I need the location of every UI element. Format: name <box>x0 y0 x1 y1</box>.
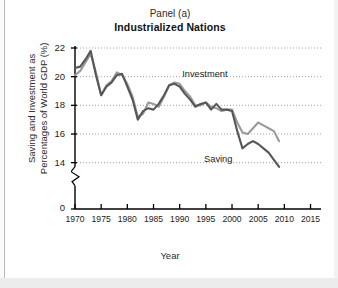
y-tick-label: 20 <box>41 71 65 82</box>
series-line-saving <box>75 51 279 167</box>
y-axis-break-mark <box>71 167 79 186</box>
figure-card: Panel (a) Industrialized Nations Saving … <box>4 0 334 278</box>
x-axis-label: Year <box>5 250 335 261</box>
y-tick-label: 16 <box>41 128 65 139</box>
chart-title-block: Panel (a) Industrialized Nations <box>5 8 335 34</box>
y-tick-label-zero: 0 <box>41 202 65 213</box>
x-tick-label: 2015 <box>296 214 326 224</box>
page-bottom-band <box>0 278 338 288</box>
y-tick-label: 14 <box>41 157 65 168</box>
investment-series-label: Investment <box>182 69 227 79</box>
panel-label: Panel (a) <box>5 8 335 21</box>
series-line-investment <box>75 54 279 141</box>
y-tick-label: 18 <box>41 99 65 110</box>
saving-series-label: Saving <box>204 154 232 164</box>
panel-title: Industrialized Nations <box>5 21 335 34</box>
y-tick-label: 22 <box>41 42 65 53</box>
data-series-group <box>75 51 279 167</box>
